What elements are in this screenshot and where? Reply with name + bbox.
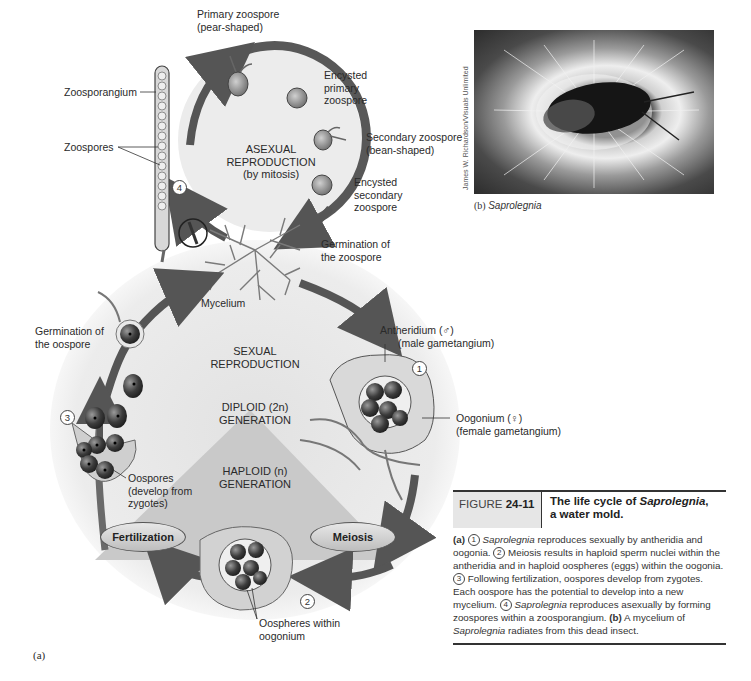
label-oogonium: Oogonium (♀) (female gametangium) bbox=[456, 412, 561, 437]
caption-species: Saprolegnia bbox=[453, 625, 505, 636]
figure-header: FIGURE 24-11 The life cycle of Saprolegn… bbox=[453, 490, 726, 528]
meiosis-stage: Meiosis bbox=[310, 522, 396, 552]
label-line: Germination of bbox=[321, 238, 390, 251]
title-line: REPRODUCTION bbox=[216, 156, 326, 169]
caption-step-4: 4 bbox=[500, 599, 512, 611]
title-text-line2: a water mold. bbox=[550, 508, 624, 520]
label-line: Primary zoospore bbox=[197, 8, 279, 21]
label-line: the zoospore bbox=[321, 251, 390, 264]
label-line: Secondary zoospore bbox=[366, 131, 462, 144]
label-encysted-secondary-zoospore: Encysted secondary zoospore bbox=[354, 176, 402, 214]
step-number-3: 3 bbox=[60, 410, 75, 425]
asexual-reproduction-title: ASEXUAL REPRODUCTION (by mitosis) bbox=[216, 143, 326, 181]
caption-label: (b) bbox=[474, 200, 486, 211]
label-encysted-primary-zoospore: Encysted primary zoospore bbox=[324, 69, 367, 107]
step-number-4: 4 bbox=[172, 180, 187, 195]
caption-species: Saprolegnia bbox=[515, 599, 567, 610]
label-germination-zoospore: Germination of the zoospore bbox=[321, 238, 390, 263]
label-line: zoospore bbox=[354, 201, 402, 214]
label-germination-oospore: Germination of the oospore bbox=[35, 325, 104, 350]
title-species: Saprolegnia bbox=[639, 495, 705, 507]
title-comma: , bbox=[705, 495, 708, 507]
photo-caption: (b) Saprolegnia bbox=[474, 200, 542, 211]
title-line: SEXUAL bbox=[200, 345, 310, 358]
step-number-2: 2 bbox=[300, 594, 315, 609]
haploid-generation-label: HAPLOID (n) GENERATION bbox=[205, 465, 305, 490]
label-line: the oospore bbox=[35, 338, 104, 351]
label-oospheres-within-oogonium: Oospheres within oogonium bbox=[259, 617, 340, 642]
caption-species: Saprolegnia bbox=[482, 534, 534, 545]
label-line: (pear-shaped) bbox=[197, 21, 279, 34]
label-line: Antheridium (♂) bbox=[380, 324, 494, 337]
photo-credit: James W. Richardson/Visuals Unlimited bbox=[462, 66, 469, 190]
label-line: Oospheres within bbox=[259, 617, 340, 630]
label-line: Oogonium (♀) bbox=[456, 412, 561, 425]
label-line: (bean-shaped) bbox=[366, 144, 462, 157]
caption-step-3: 3 bbox=[453, 573, 465, 585]
figure-caption-box: FIGURE 24-11 The life cycle of Saprolegn… bbox=[453, 490, 726, 645]
label-line: (develop from bbox=[128, 485, 192, 498]
caption-step-1: 1 bbox=[468, 534, 480, 546]
saprolegnia-photo bbox=[474, 30, 714, 194]
caption-text: radiates from this dead insect. bbox=[505, 625, 638, 636]
caption-text: A mycelium of bbox=[622, 612, 685, 623]
label-zoosporangium: Zoosporangium bbox=[64, 86, 137, 99]
title-line: REPRODUCTION bbox=[200, 358, 310, 371]
panel-a-label: (a) bbox=[33, 649, 45, 662]
label-line: Oospores bbox=[128, 472, 192, 485]
oospheres-within-oogonium bbox=[200, 527, 293, 610]
primary-zoospore bbox=[228, 72, 248, 96]
label-line: zoospore bbox=[324, 94, 367, 107]
caption-a-label: (a) bbox=[453, 534, 465, 545]
label-mycelium: Mycelium bbox=[201, 297, 245, 310]
label-line: Germination of bbox=[35, 325, 104, 338]
label-line: oogonium bbox=[259, 630, 340, 643]
figure-prefix: FIGURE bbox=[459, 498, 502, 510]
photo-illustration bbox=[474, 30, 714, 194]
title-line: HAPLOID (n) bbox=[205, 465, 305, 478]
label-line: secondary bbox=[354, 189, 402, 202]
title-line: GENERATION bbox=[205, 478, 305, 491]
label-line: (male gametangium) bbox=[380, 337, 494, 350]
label-line: (female gametangium) bbox=[456, 425, 561, 438]
diploid-generation-label: DIPLOID (2n) GENERATION bbox=[205, 401, 305, 426]
figure-caption-text: (a) 1 Saprolegnia reproduces sexually by… bbox=[453, 528, 726, 645]
encysted-primary-zoospore bbox=[287, 88, 307, 108]
label-line: zygotes) bbox=[128, 497, 192, 510]
label-zoospores: Zoospores bbox=[64, 141, 114, 154]
figure-title: The life cycle of Saprolegnia, a water m… bbox=[542, 492, 726, 528]
title-text: The life cycle of bbox=[550, 495, 639, 507]
label-line: Encysted bbox=[354, 176, 402, 189]
label-oospores: Oospores (develop from zygotes) bbox=[128, 472, 192, 510]
label-line: Encysted bbox=[324, 69, 367, 82]
caption-step-2: 2 bbox=[493, 547, 505, 559]
label-line: primary bbox=[324, 82, 367, 95]
figure-number: FIGURE 24-11 bbox=[453, 492, 542, 528]
sexual-reproduction-title: SEXUAL REPRODUCTION bbox=[200, 345, 310, 370]
title-line: GENERATION bbox=[205, 414, 305, 427]
label-antheridium: Antheridium (♂) (male gametangium) bbox=[380, 324, 494, 349]
label-primary-zoospore: Primary zoospore (pear-shaped) bbox=[197, 8, 279, 33]
title-line: DIPLOID (2n) bbox=[205, 401, 305, 414]
fertilization-stage: Fertilization bbox=[100, 522, 186, 552]
title-line: (by mitosis) bbox=[216, 168, 326, 181]
figure-number-value: 24-11 bbox=[506, 498, 535, 510]
step-number-1: 1 bbox=[412, 361, 427, 376]
caption-b-label: (b) bbox=[609, 612, 622, 623]
caption-species: Saprolegnia bbox=[488, 200, 541, 211]
label-secondary-zoospore: Secondary zoospore (bean-shaped) bbox=[366, 131, 462, 156]
title-line: ASEXUAL bbox=[216, 143, 326, 156]
